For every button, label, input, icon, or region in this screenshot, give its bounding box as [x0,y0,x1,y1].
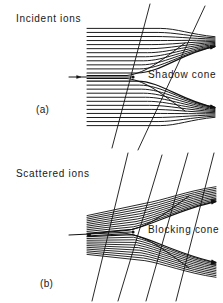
panel-b-heading-label: Scattered ions [16,169,90,179]
figure-canvas: Incident ions Shadow cone (a) Scattered … [0,0,223,303]
incident-ray [87,32,215,37]
incident-ray [87,85,215,107]
blocking-cone-label: Blocking cone [148,225,219,235]
axis-ray-arrowhead [77,75,81,78]
crossing-line [148,2,196,12]
scattered-ray [87,193,216,222]
panel-b-tag: (b) [40,279,53,289]
scattering-center-dot [131,75,134,78]
incident-ray [87,47,215,69]
incident-ray [87,116,215,121]
incident-ray [87,37,215,40]
incident-ray [87,115,215,118]
source-atom-dot [87,233,91,237]
shadow-cone-label: Shadow cone [148,70,216,80]
panel-a-tag: (a) [36,105,49,115]
panel-a-heading-label: Incident ions [16,14,81,24]
blocking-atom-dot [131,230,134,233]
